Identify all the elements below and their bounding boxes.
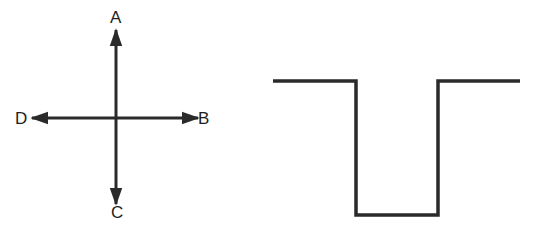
label-d: D — [15, 110, 27, 127]
diagram-figure: A B C D — [0, 0, 535, 236]
label-a: A — [110, 9, 121, 26]
label-c: C — [111, 204, 123, 221]
well-profile — [273, 81, 520, 215]
cross-diagram — [32, 30, 198, 204]
well-outline — [273, 81, 520, 215]
label-b: B — [198, 110, 209, 127]
diagram-canvas — [0, 0, 535, 236]
